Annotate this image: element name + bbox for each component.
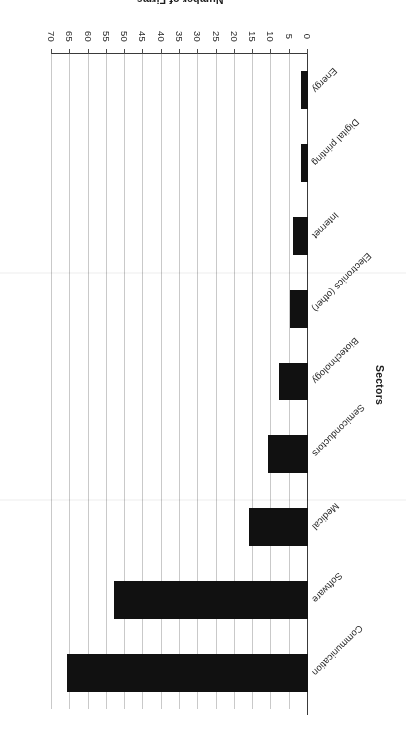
category-label: Biotechnology <box>310 318 379 387</box>
bar <box>301 144 308 182</box>
category-axis-title: Sectors <box>374 365 386 405</box>
value-axis-tick-label: 60 <box>83 17 94 57</box>
category-label: Energy <box>310 27 379 96</box>
value-axis-title: Number of Firms <box>52 0 308 6</box>
value-axis-tick-label: 10 <box>266 17 277 57</box>
bar <box>279 363 308 401</box>
bar <box>114 581 308 619</box>
bar-row <box>52 435 308 473</box>
bar-row <box>52 217 308 255</box>
value-axis-tick-label: 40 <box>156 17 167 57</box>
category-label: Internet <box>310 173 379 242</box>
category-label: Digital printing <box>310 100 379 169</box>
value-axis-tick-label: 65 <box>65 17 76 57</box>
bar-row <box>52 290 308 328</box>
category-label: Semiconductors <box>310 391 379 460</box>
bar-chart-figure: 0510152025303540455055606570 Number of F… <box>0 0 406 737</box>
bar <box>250 508 309 546</box>
value-axis-tick-label: 35 <box>175 17 186 57</box>
value-axis-tick-label: 45 <box>138 17 149 57</box>
bar <box>268 435 308 473</box>
value-axis-tick-label: 70 <box>47 17 58 57</box>
bar-row <box>52 71 308 109</box>
value-axis-tick-label: 30 <box>193 17 204 57</box>
category-label: Medical <box>310 464 379 533</box>
category-label: Software <box>310 537 379 606</box>
value-axis-tick-label: 15 <box>248 17 259 57</box>
bar-row <box>52 654 308 692</box>
bar <box>293 217 308 255</box>
value-axis-tick-label: 0 <box>303 17 314 57</box>
plot-area <box>52 54 308 709</box>
bar-row <box>52 363 308 401</box>
bar <box>301 71 308 109</box>
value-axis-tick-label: 25 <box>211 17 222 57</box>
bar <box>290 290 308 328</box>
bar-row <box>52 508 308 546</box>
category-label: Electronics (other) <box>310 246 379 315</box>
bar <box>67 654 308 692</box>
value-axis-tick-label: 55 <box>101 17 112 57</box>
bar-row <box>52 144 308 182</box>
value-axis-tick-label: 20 <box>229 17 240 57</box>
value-axis-tick-label: 5 <box>284 17 295 57</box>
bar-row <box>52 581 308 619</box>
value-axis-tick-label: 50 <box>120 17 131 57</box>
rotated-page-canvas: 0510152025303540455055606570 Number of F… <box>0 0 406 737</box>
category-label: Communication <box>310 609 379 678</box>
